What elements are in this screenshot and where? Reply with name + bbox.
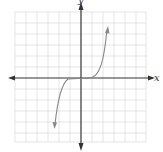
- y-axis-down-arrow-icon: [79, 143, 84, 151]
- curve-end-arrow-down-icon: [53, 122, 58, 129]
- y-axis-label: y: [78, 0, 84, 5]
- coordinate-plane: [0, 0, 163, 152]
- y-axis: [79, 2, 84, 151]
- x-axis-label: x: [154, 72, 160, 83]
- curve-end-arrow-up-icon: [105, 26, 110, 34]
- x-axis-left-arrow-icon: [8, 76, 15, 81]
